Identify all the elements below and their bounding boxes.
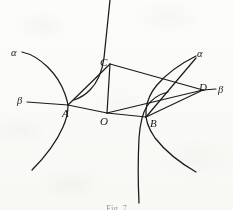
point-label-C: C [100, 57, 107, 68]
segment-O-D [107, 90, 203, 113]
curve-group [22, 0, 196, 203]
segment-B-D [146, 90, 203, 117]
point-label-D: D [199, 82, 207, 93]
asymptote-label-alpha-left: α [11, 48, 17, 59]
hyperbola-upper-curve [74, 0, 110, 100]
diagram-canvas [0, 0, 233, 210]
figure-caption: Fig. 7 [0, 204, 233, 210]
asymptote-label-beta-right: β [218, 85, 223, 96]
segment-group [27, 58, 216, 117]
segment-A-C [68, 64, 110, 105]
point-label-O: O [100, 116, 108, 127]
asymptote-label-alpha-right: α [197, 49, 203, 60]
segment-C-O [107, 64, 110, 113]
segment-A-O [68, 105, 107, 113]
point-label-A: A [62, 108, 69, 119]
point-label-B: B [150, 118, 157, 129]
asymptote-label-beta-left: β [17, 96, 22, 107]
segment-B-alpha-right [146, 58, 196, 117]
segment-O-B [107, 113, 146, 117]
segment-beta-left-to-A [27, 102, 68, 105]
geometry-figure: A B C D O α α β β Fig. 7 [0, 0, 233, 210]
